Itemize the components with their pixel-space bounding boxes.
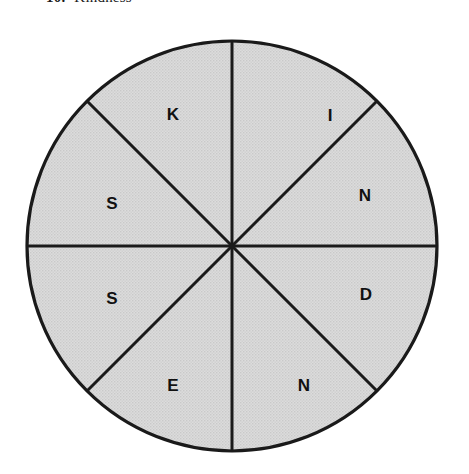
page-canvas: 10.Kindness K I xyxy=(0,0,469,474)
sector-letter-8: S xyxy=(106,194,117,213)
sector-letter-3: N xyxy=(359,186,371,205)
sector-letter-1: K xyxy=(167,105,180,124)
sector-letter-6: E xyxy=(167,376,178,395)
sector-letter-4: D xyxy=(360,285,372,304)
wheel-svg: K I N D N E S S xyxy=(0,0,469,474)
sector-letter-2: I xyxy=(328,106,333,125)
sector-letter-7: S xyxy=(106,289,117,308)
wheel-spokes xyxy=(27,41,437,451)
kindness-wheel: K I N D N E S S xyxy=(0,0,469,474)
sector-letter-5: N xyxy=(298,376,310,395)
